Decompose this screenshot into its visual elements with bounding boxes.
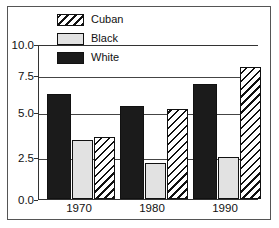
x-tick-label-1970: 1970 bbox=[57, 203, 101, 215]
legend-label-cuban: Cuban bbox=[91, 14, 123, 25]
gridline-5-0 bbox=[39, 114, 258, 115]
legend-item-black: Black bbox=[57, 30, 157, 47]
gridline-7-5 bbox=[39, 77, 258, 78]
legend-swatch-black-icon bbox=[57, 33, 84, 45]
x-tick-label-1980: 1980 bbox=[130, 203, 174, 215]
x-tick-label-1990: 1990 bbox=[203, 203, 247, 215]
bar-black-1990 bbox=[218, 157, 239, 199]
legend-label-white: White bbox=[91, 52, 119, 63]
y-tick-label-2-5: 2.5 bbox=[18, 153, 34, 165]
plot-area bbox=[38, 45, 258, 200]
bar-chart-figure: 10.0 7.5 5.0 2.5 0.0 1970 1980 1990 bbox=[0, 0, 279, 228]
bar-black-1980 bbox=[145, 163, 166, 199]
bar-white-1980 bbox=[120, 106, 144, 199]
legend-swatch-white-icon bbox=[57, 52, 84, 64]
bar-white-1990 bbox=[193, 84, 217, 199]
y-axis-labels: 10.0 7.5 5.0 2.5 0.0 bbox=[0, 0, 34, 228]
bar-cuban-1970 bbox=[94, 137, 115, 199]
legend-label-black: Black bbox=[91, 33, 118, 44]
chart-legend: Cuban Black White bbox=[57, 11, 157, 68]
y-tick-label-7-5: 7.5 bbox=[18, 71, 34, 83]
y-tick-label-0: 0.0 bbox=[18, 195, 34, 207]
legend-item-cuban: Cuban bbox=[57, 11, 157, 28]
legend-swatch-cuban-icon bbox=[57, 14, 84, 26]
legend-item-white: White bbox=[57, 49, 157, 66]
bar-cuban-1980 bbox=[167, 109, 188, 199]
bar-black-1970 bbox=[72, 140, 93, 199]
bar-cuban-1990 bbox=[240, 67, 261, 199]
y-tick-label-5: 5.0 bbox=[18, 108, 34, 120]
bar-white-1970 bbox=[47, 94, 71, 199]
y-tick-mark-0 bbox=[34, 200, 38, 201]
y-tick-label-10: 10.0 bbox=[12, 40, 34, 52]
